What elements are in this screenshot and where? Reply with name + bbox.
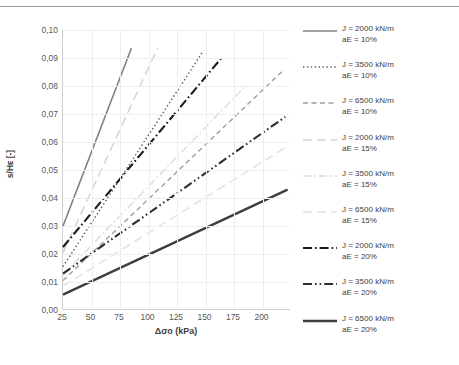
- legend-item[interactable]: J = 2000 kN/maE = 10%: [302, 23, 452, 53]
- legend-label-line2: aE = 20%: [342, 324, 394, 335]
- legend-label-line1: J = 6500 kN/m: [342, 204, 394, 215]
- x-axis-title-text: Δσo (kPa): [155, 326, 198, 336]
- y-tick-label: 0,01: [4, 277, 58, 287]
- legend-label-line2: aE = 20%: [342, 251, 394, 262]
- legend-swatch: [302, 24, 338, 38]
- legend-label: J = 2000 kN/maE = 15%: [342, 132, 394, 154]
- y-tick-label: 0,06: [4, 137, 58, 147]
- y-tick-label: 0,10: [4, 25, 58, 35]
- gridline-vertical: [206, 30, 207, 309]
- legend-label: J = 6500 kN/maE = 15%: [342, 204, 394, 226]
- legend-swatch: [302, 314, 338, 328]
- y-axis-tick-labels: 0,000,010,020,030,040,050,060,070,080,09…: [0, 30, 58, 310]
- legend-label-line2: aE = 10%: [342, 70, 394, 81]
- legend-swatch: [302, 133, 338, 147]
- x-tick-label: 200: [244, 312, 280, 323]
- legend-swatch: [302, 241, 338, 255]
- legend-label-line2: aE = 10%: [342, 34, 394, 45]
- series-line: [63, 48, 158, 252]
- legend-label: J = 3500 kN/maE = 10%: [342, 59, 394, 81]
- y-tick-label: 0,03: [4, 221, 58, 231]
- series-line: [63, 48, 131, 226]
- legend-swatch: [302, 205, 338, 219]
- legend-item[interactable]: J = 2000 kN/maE = 15%: [302, 132, 452, 162]
- legend-label-line1: J = 2000 kN/m: [342, 132, 394, 143]
- y-tick-label: 0,05: [4, 165, 58, 175]
- legend-label: J = 2000 kN/maE = 10%: [342, 23, 394, 45]
- legend-label: J = 3500 kN/maE = 15%: [342, 168, 394, 190]
- legend-label-line1: J = 3500 kN/m: [342, 276, 394, 287]
- legend-swatch: [302, 169, 338, 183]
- legend-swatch: [302, 60, 338, 74]
- y-tick-label: 0,04: [4, 193, 58, 203]
- legend-item[interactable]: J = 6500 kN/maE = 15%: [302, 204, 452, 234]
- gridline-vertical: [263, 30, 264, 309]
- chart-legend: J = 2000 kN/maE = 10%J = 3500 kN/maE = 1…: [302, 23, 452, 348]
- x-axis-tick-labels: 255075100125150175200: [62, 312, 298, 326]
- legend-label: J = 3500 kN/maE = 20%: [342, 276, 394, 298]
- legend-item[interactable]: J = 3500 kN/maE = 10%: [302, 59, 452, 89]
- gridline-vertical: [120, 30, 121, 309]
- gridline-vertical: [92, 30, 93, 309]
- legend-label-line1: J = 6500 kN/m: [342, 95, 394, 106]
- plot-wrapper: s/Hᴇ [-] 0,000,010,020,030,040,050,060,0…: [0, 9, 459, 356]
- y-tick-label: 0,09: [4, 53, 58, 63]
- legend-label-line1: J = 2000 kN/m: [342, 240, 394, 251]
- legend-label-line2: aE = 15%: [342, 215, 394, 226]
- legend-label-line2: aE = 20%: [342, 287, 394, 298]
- legend-label-line1: J = 3500 kN/m: [342, 59, 394, 70]
- legend-label-line2: aE = 15%: [342, 143, 394, 154]
- chart-figure: s/Hᴇ [-] 0,000,010,020,030,040,050,060,0…: [0, 9, 459, 356]
- y-tick-label: 0,07: [4, 109, 58, 119]
- legend-label-line1: J = 2000 kN/m: [342, 23, 394, 34]
- gridline-vertical: [177, 30, 178, 309]
- legend-label-line1: J = 3500 kN/m: [342, 168, 394, 179]
- legend-label: J = 6500 kN/maE = 20%: [342, 313, 394, 335]
- legend-label-line2: aE = 15%: [342, 179, 394, 190]
- legend-item[interactable]: J = 3500 kN/maE = 20%: [302, 276, 452, 306]
- gridline-vertical: [149, 30, 150, 309]
- y-tick-label: 0,02: [4, 249, 58, 259]
- series-line: [63, 71, 283, 281]
- legend-item[interactable]: J = 3500 kN/maE = 15%: [302, 168, 452, 198]
- top-frame-rule: [0, 6, 459, 7]
- legend-swatch: [302, 277, 338, 291]
- series-line: [63, 51, 203, 267]
- legend-item[interactable]: J = 6500 kN/maE = 10%: [302, 95, 452, 125]
- legend-label: J = 6500 kN/maE = 10%: [342, 95, 394, 117]
- x-axis-title: Δσo (kPa): [62, 326, 290, 336]
- legend-item[interactable]: J = 2000 kN/maE = 20%: [302, 240, 452, 270]
- gridline-vertical: [234, 30, 235, 309]
- legend-item[interactable]: J = 6500 kN/maE = 20%: [302, 313, 452, 343]
- legend-label: J = 2000 kN/maE = 20%: [342, 240, 394, 262]
- plot-area: [62, 30, 290, 310]
- legend-label-line1: J = 6500 kN/m: [342, 313, 394, 324]
- series-line: [63, 146, 288, 286]
- legend-swatch: [302, 96, 338, 110]
- legend-label-line2: aE = 10%: [342, 106, 394, 117]
- y-tick-label: 0,08: [4, 81, 58, 91]
